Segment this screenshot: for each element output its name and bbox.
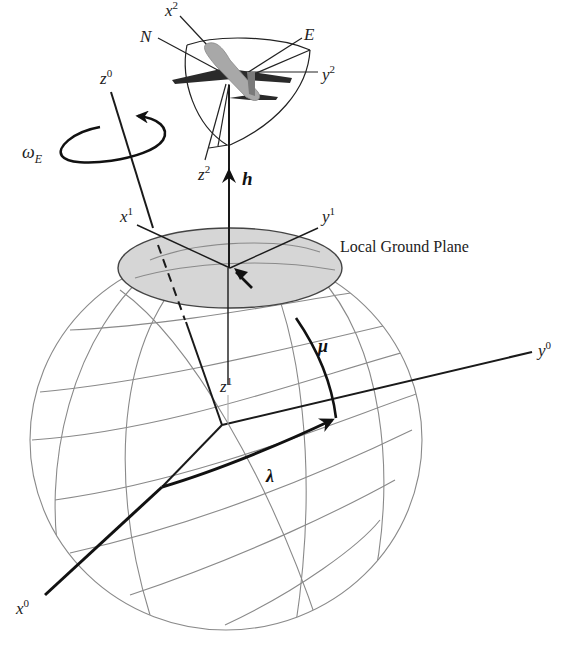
- z0-axis-lower: [186, 322, 222, 425]
- east-label: E: [303, 25, 315, 44]
- x0-axis-outer: [45, 487, 162, 595]
- y0-axis: [222, 352, 532, 425]
- earth-rate-label: ωE: [22, 142, 43, 166]
- x2-axis: [180, 16, 208, 46]
- earth-rotation-arrow: [61, 116, 165, 163]
- local-ground-plane-label: Local Ground Plane: [340, 238, 469, 255]
- x2-label: x2: [164, 0, 178, 20]
- x0-label: x0: [15, 597, 30, 618]
- earth-frame-diagram: Local Ground Plane z0 y0 x0 ωE x1 y1: [0, 0, 587, 646]
- y1-label: y1: [320, 205, 335, 226]
- z2-label: z2: [197, 163, 210, 184]
- x1-label: x1: [119, 205, 133, 226]
- z0-label: z0: [99, 67, 113, 88]
- frame0-axes: [45, 92, 532, 595]
- z1-label: z1: [219, 375, 232, 396]
- h-label: h: [242, 168, 253, 189]
- y2-label: y2: [320, 63, 335, 84]
- lambda-label: λ: [265, 466, 274, 486]
- north-label: N: [139, 27, 153, 46]
- y0-label: y0: [536, 339, 552, 360]
- mu-label: μ: [317, 336, 328, 356]
